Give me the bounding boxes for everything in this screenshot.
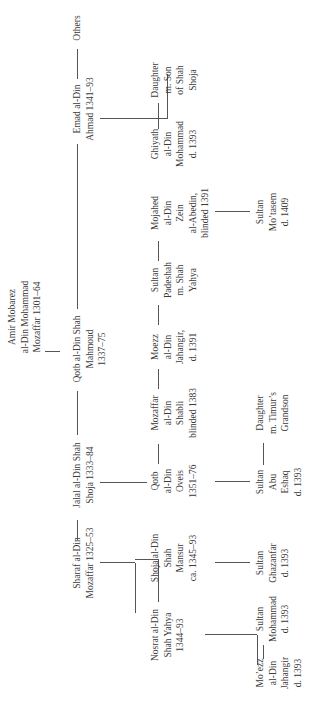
daughter-emad-line-2: m. Son [162, 55, 175, 105]
ghiyath-line-2: al-Din [162, 113, 175, 175]
node-sultan-ghazanfar: Sultan Ghazanfar d. 1393 [254, 533, 292, 593]
daughter-oveis-line-3: Grandson [279, 383, 292, 443]
qotb-line-3: 1337–75 [96, 306, 109, 392]
daughter-oveis-line-1: Daughter [254, 383, 267, 443]
sultan-mohammad-line-2: Mohammad [267, 589, 280, 649]
node-padeshah: Sultan Padeshah m. Shah Yahya [149, 255, 199, 305]
connector-jalal-down [100, 482, 135, 483]
founder-line-1: Amir Mobarez [6, 262, 19, 372]
node-shoja-mansur: Shoja al-Din Shah Mansur ca. 1345–93 [149, 525, 199, 591]
oveis-line-1: Qotb [149, 464, 162, 498]
shabli-line-3: Shabli [174, 381, 187, 445]
shoja-mansur-line-4: ca. 1345–93 [187, 525, 200, 591]
moezz-jahangir-line-3: Jahangir [279, 651, 292, 695]
emad-line-1: Emad al-Din [71, 73, 84, 145]
padeshah-line-3: m. Shah [174, 255, 187, 305]
node-mojahed: Mojahed al-Din Zein al-Abedin, blinded 1… [149, 181, 212, 245]
ghazanfar-line-1: Sultan [254, 533, 267, 593]
daughter-oveis-line-2: m. Timur’s [267, 383, 280, 443]
daughter-emad-line-1: Daughter [149, 55, 162, 105]
mojahed-line-5: blinded 1391 [199, 181, 212, 245]
node-sharaf: Sharaf al-Din Mozaffar 1325–53 [71, 523, 96, 603]
mojahed-line-3: Zein [174, 181, 187, 245]
connector-abu-eshaq-daughter [263, 443, 264, 465]
node-daughter-emad: Daughter m. Son of Shah Shoja [149, 55, 199, 105]
ghazanfar-line-3: d. 1393 [279, 533, 292, 593]
connector-emad-t [135, 118, 159, 119]
motasem-line-1: Sultan [254, 187, 267, 237]
ghiyath-line-3: Mohammad [174, 113, 187, 175]
connector-ghiyath-daughter [158, 103, 159, 129]
shabli-line-1: Mozaffar [149, 381, 162, 445]
connector-mojahed-down [215, 211, 250, 212]
node-sultan-abu-eshaq: Sultan Abu Eshaq d. 1393 [254, 463, 304, 501]
jalal-line-1: Jalal al-Din Shah [71, 430, 84, 520]
shoja-mansur-line-2: Shah [162, 525, 175, 591]
connector-founder-down [45, 351, 60, 352]
qotb-line-1: Qotb al-Din Shah [71, 306, 84, 392]
node-sultan-motasem: Sultan Mo’tasem d. 1409 [254, 187, 292, 237]
connector-shabli-moezz [158, 369, 159, 389]
others-line-1: Others [71, 8, 84, 48]
node-moezz-jahangir: Mo’ezz al-Din Jahangir d. 1393 [254, 651, 304, 695]
padeshah-line-4: Yahya [187, 255, 200, 305]
shabli-line-2: al-Din [162, 381, 175, 445]
moezz-jahangir-line-1: Mo’ezz [254, 651, 267, 695]
node-founder: Amir Mobarez al-Din Mohammad Mozaffar 13… [6, 262, 44, 372]
motasem-line-2: Mo’tasem [267, 187, 280, 237]
node-others: Others [71, 8, 84, 48]
abu-eshaq-line-2: Abu [267, 463, 280, 501]
node-sultan-mohammad: Sultan Mohammad d. 1393 [254, 589, 292, 649]
family-tree-diagram: Amir Mobarez al-Din Mohammad Mozaffar 13… [0, 0, 324, 723]
node-qotb: Qotb al-Din Shah Mahmoud 1337–75 [71, 306, 109, 392]
abu-eshaq-line-3: Eshaq [279, 463, 292, 501]
qotb-line-2: Mahmoud [84, 306, 97, 392]
shabli-line-4: blinded 1383 [187, 381, 200, 445]
connector-emad-others [77, 49, 78, 79]
oveis-line-4: 1351–76 [187, 464, 200, 498]
moezz-line-1: Moezz [149, 323, 162, 371]
connector-oveis-down [215, 481, 250, 482]
daughter-emad-line-4: Shoja [187, 55, 200, 105]
shoja-mansur-line-1: Shoja al-Din [149, 525, 162, 591]
founder-line-3: Mozaffar 1301–64 [31, 262, 44, 372]
node-jalal: Jalal al-Din Shah Shoja 1333–84 [71, 430, 96, 520]
nosrat-line-1: Nosrat al-Din [149, 599, 162, 671]
node-mozaffar-shabli: Mozaffar al-Din Shabli blinded 1383 [149, 381, 199, 445]
connector-sharaf-down [100, 562, 135, 563]
ghiyath-line-4: d. 1393 [187, 113, 200, 175]
shoja-mansur-line-3: Mansur [174, 525, 187, 591]
node-daughter-oveis: Daughter m. Timur’s Grandson [254, 383, 292, 443]
abu-eshaq-line-4: d. 1393 [292, 463, 305, 501]
sultan-mohammad-line-3: d. 1393 [279, 589, 292, 649]
ghiyath-line-1: Ghiyath [149, 113, 162, 175]
connector-oveis-shabli [158, 444, 159, 464]
mojahed-line-1: Mojahed [149, 181, 162, 245]
connector-moezz-padeshah [158, 305, 159, 325]
mojahed-line-2: al-Din [162, 181, 175, 245]
nosrat-line-2: Shah Yahya [162, 599, 175, 671]
oveis-line-3: Oveis [174, 464, 187, 498]
padeshah-line-2: Padeshah [162, 255, 175, 305]
padeshah-line-1: Sultan [149, 255, 162, 305]
connector-nosrat-down [205, 634, 257, 635]
sultan-mohammad-line-1: Sultan [254, 589, 267, 649]
moezz-jahangir-line-2: al-Din [267, 651, 280, 695]
mojahed-line-4: al-Abedin, [187, 181, 200, 245]
connector-jalal-to-oveis [135, 482, 147, 483]
emad-line-2: Ahmad 1341–93 [84, 73, 97, 145]
motasem-line-3: d. 1409 [279, 187, 292, 237]
node-qotb-oveis: Qotb al-Din Oveis 1351–76 [149, 464, 199, 498]
jalal-line-2: Shoja 1333–84 [84, 430, 97, 520]
daughter-emad-line-3: of Shah [174, 55, 187, 105]
node-moezz: Moezz al-Din Jahangir, d. 1391 [149, 323, 199, 371]
founder-line-2: al-Din Mohammad [19, 262, 32, 372]
moezz-line-4: d. 1391 [187, 323, 200, 371]
node-ghiyath: Ghiyath al-Din Mohammad d. 1393 [149, 113, 199, 175]
moezz-jahangir-line-4: d. 1393 [292, 651, 305, 695]
moezz-line-2: al-Din [162, 323, 175, 371]
moezz-line-3: Jahangir, [174, 323, 187, 371]
ghazanfar-line-2: Ghazanfar [267, 533, 280, 593]
connector-mansur-down [215, 562, 250, 563]
oveis-line-2: al-Din [162, 464, 175, 498]
